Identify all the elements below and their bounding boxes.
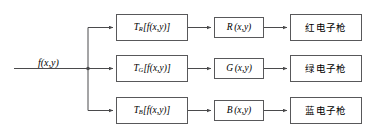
transform-block-green: TG[f(x,y)] — [116, 55, 188, 82]
channel-letter-red: R — [227, 23, 233, 33]
channel-arg-red: (x,y) — [234, 23, 251, 33]
channel-block-blue: B(x,y) — [214, 100, 264, 121]
transform-subscript-green: G — [138, 67, 143, 74]
channel-letter-green: G — [226, 64, 233, 74]
transform-subscript-blue: B — [139, 109, 143, 116]
transform-arg-blue: [f(x,y)] — [143, 106, 170, 116]
electron-gun-block-red: 红电子枪 — [290, 14, 362, 41]
transform-arg-red: [f(x,y)] — [143, 23, 170, 33]
transform-block-red: TR[f(x,y)] — [116, 14, 188, 41]
input-signal-label: f(x,y) — [38, 57, 59, 68]
channel-block-red: R(x,y) — [214, 17, 264, 38]
channel-block-green: G(x,y) — [214, 58, 264, 79]
electron-gun-block-green: 绿电子枪 — [290, 55, 362, 82]
channel-arg-blue: (x,y) — [234, 106, 251, 116]
block-diagram: f(x,y) TR[f(x,y)] R(x,y) 红电子枪 TG[f(x,y)]… — [0, 0, 372, 137]
channel-arg-green: (x,y) — [235, 64, 252, 74]
transform-arg-green: [f(x,y)] — [143, 64, 170, 74]
transform-block-blue: TB[f(x,y)] — [116, 97, 188, 124]
electron-gun-block-blue: 蓝电子枪 — [290, 97, 362, 124]
channel-letter-blue: B — [227, 106, 233, 116]
transform-subscript-red: R — [139, 26, 143, 33]
